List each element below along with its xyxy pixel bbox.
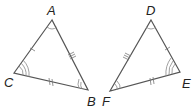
- congruent-triangles-diagram: A B C D E F: [0, 0, 194, 110]
- vertex-label-f: F: [102, 94, 111, 109]
- vertex-label-a: A: [46, 3, 56, 18]
- ticks-fe: [150, 77, 154, 85]
- vertex-label-b: B: [87, 94, 96, 109]
- triangle-abc: A B C: [4, 3, 96, 109]
- vertex-label-c: C: [4, 75, 14, 90]
- triangle-def: D E F: [102, 3, 191, 109]
- triangle-abc-outline: [14, 20, 88, 90]
- vertex-label-e: E: [182, 76, 191, 91]
- vertex-label-d: D: [146, 3, 155, 18]
- angle-b-arcs: [78, 79, 82, 89]
- triangle-def-outline: [110, 20, 180, 91]
